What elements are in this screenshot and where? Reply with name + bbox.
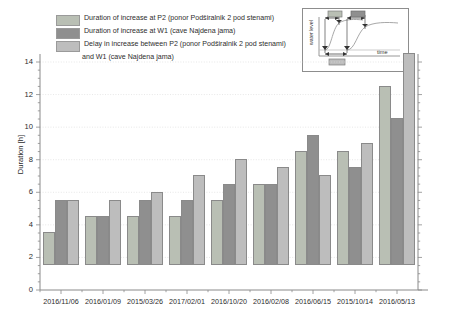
bar[interactable] <box>109 200 121 265</box>
y-tick-label: 4 <box>9 220 33 229</box>
x-tick-label: 2016/05/13 <box>367 297 427 306</box>
bar[interactable] <box>265 184 277 265</box>
bar[interactable] <box>127 216 139 265</box>
bar[interactable] <box>361 143 373 265</box>
y-tick-label: 2 <box>9 252 33 261</box>
bar[interactable] <box>151 192 163 265</box>
bar[interactable] <box>277 167 289 265</box>
bar[interactable] <box>379 86 391 265</box>
bar-chart: Duration [h] 024681012142016/11/062016/0… <box>0 0 450 315</box>
bar[interactable] <box>403 53 415 265</box>
bar[interactable] <box>223 184 235 265</box>
y-tick-label: 12 <box>9 90 33 99</box>
bar[interactable] <box>391 118 403 265</box>
bar[interactable] <box>193 175 205 265</box>
bar[interactable] <box>97 216 109 265</box>
bar[interactable] <box>139 200 151 265</box>
bar[interactable] <box>181 200 193 265</box>
bar[interactable] <box>67 200 79 265</box>
y-tick-label: 14 <box>9 57 33 66</box>
bar[interactable] <box>337 151 349 265</box>
bar[interactable] <box>55 200 67 265</box>
y-tick-label: 10 <box>9 122 33 131</box>
y-tick-label: 8 <box>9 155 33 164</box>
y-tick-label: 6 <box>9 187 33 196</box>
bar[interactable] <box>295 151 307 265</box>
bars-layer <box>0 0 450 290</box>
bar[interactable] <box>43 232 55 265</box>
bar[interactable] <box>235 159 247 265</box>
bar[interactable] <box>307 135 319 265</box>
y-tick-label: 0 <box>9 285 33 294</box>
bar[interactable] <box>169 216 181 265</box>
bar[interactable] <box>85 216 97 265</box>
bar[interactable] <box>349 167 361 265</box>
bar[interactable] <box>319 175 331 265</box>
bar[interactable] <box>211 200 223 265</box>
bar[interactable] <box>253 184 265 265</box>
